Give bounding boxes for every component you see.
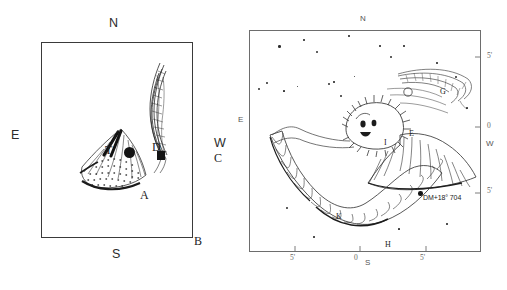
- left-compass-east: E: [11, 128, 20, 142]
- field-star: [286, 207, 288, 209]
- right-label-k: K: [336, 212, 342, 221]
- right-sketch-panel: N E W S 5' 0 5' 5' 0 5': [232, 0, 507, 290]
- dm-star-label: DM+18° 704: [423, 194, 461, 201]
- field-star: [340, 95, 342, 97]
- field-star: [278, 45, 281, 48]
- field-star: [455, 76, 457, 78]
- left-sketch-drawing: [42, 43, 192, 237]
- field-star: [403, 45, 405, 47]
- left-sketch-panel: N S E W: [0, 0, 232, 290]
- right-axis-tick-bottom: 5': [487, 186, 492, 195]
- left-label-b: B: [194, 234, 202, 249]
- bottom-axis-tick-zero: 0: [354, 253, 358, 262]
- field-star: [328, 83, 330, 85]
- field-star: [466, 107, 468, 109]
- field-star: [379, 45, 381, 47]
- left-label-c: C: [214, 151, 222, 166]
- field-star: [313, 236, 315, 238]
- left-sketch-frame: T D C A B: [41, 42, 193, 238]
- left-compass-north: N: [109, 16, 119, 30]
- right-feature-streak: [387, 69, 471, 113]
- bottom-axis-tick-right: 5': [420, 253, 425, 262]
- field-star: [398, 228, 400, 230]
- field-star: [348, 35, 350, 37]
- left-label-a: A: [140, 188, 149, 203]
- right-feature-lower-arc: [270, 131, 443, 226]
- comet-sketch-figure: N S E W: [0, 0, 507, 290]
- left-compass-west: W: [214, 136, 226, 150]
- right-label-g: G: [440, 87, 446, 96]
- field-star: [266, 82, 268, 84]
- right-sketch-frame: DM+18° 704 I E G K H: [249, 30, 481, 252]
- right-axis-tick-zero: 0: [487, 121, 491, 130]
- field-star: [333, 81, 335, 83]
- right-compass-west: W: [486, 139, 494, 148]
- right-feature-central-nebula: [342, 95, 411, 157]
- field-star: [446, 223, 448, 225]
- dm-star-dot-icon: [418, 191, 423, 196]
- right-label-i: I: [384, 138, 387, 147]
- right-axis-tick-top: 5': [487, 51, 492, 60]
- bottom-axis-tick-left: 5': [290, 253, 295, 262]
- right-label-h: H: [385, 240, 391, 249]
- left-compass-south: S: [112, 247, 121, 261]
- field-star: [283, 90, 285, 92]
- right-label-e: E: [409, 129, 414, 138]
- right-sketch-drawing: [250, 31, 480, 251]
- left-star-dot-icon: [124, 147, 135, 158]
- field-star: [303, 39, 305, 41]
- right-compass-south: S: [365, 258, 371, 267]
- right-compass-east: E: [238, 115, 244, 124]
- field-star: [390, 56, 392, 58]
- field-star: [436, 62, 438, 64]
- right-compass-north: N: [360, 14, 366, 23]
- left-label-t: T: [105, 143, 112, 158]
- left-label-d: D: [152, 140, 161, 155]
